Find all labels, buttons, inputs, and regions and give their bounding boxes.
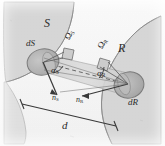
angle-r-label: αR	[97, 69, 105, 79]
element-ds-label: dS	[26, 39, 35, 48]
angle-s-subscript: S	[56, 69, 59, 75]
radiative-exchange-figure: S R dS dR ΩS ΩR αS αR nS nR d	[0, 0, 165, 146]
normal-s-label: nS	[52, 94, 59, 103]
angle-r-subscript: R	[102, 72, 106, 78]
angle-s-label: αS	[51, 66, 59, 76]
figure-vector-canvas	[0, 0, 165, 146]
normal-s-subscript: S	[56, 97, 59, 102]
solid-angle-s-patch	[62, 48, 74, 60]
normal-r-label: nR	[76, 96, 83, 105]
surface-s-label: S	[44, 17, 50, 29]
surface-r-label: R	[118, 42, 125, 54]
normal-r-subscript: R	[80, 99, 83, 104]
distance-label: d	[62, 120, 68, 131]
element-dr-label: dR	[128, 98, 138, 107]
